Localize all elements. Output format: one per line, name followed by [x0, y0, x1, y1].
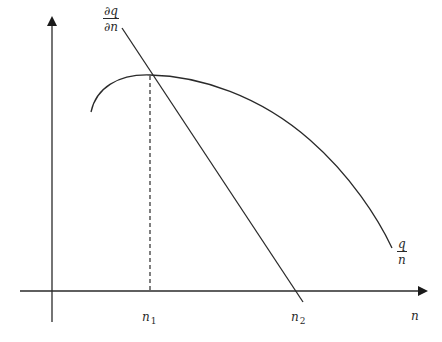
- n1-base: n: [142, 310, 150, 324]
- marginal-product-line: [122, 28, 303, 302]
- mp-denominator: ∂n: [103, 19, 119, 33]
- ap-denominator: n: [397, 252, 407, 266]
- x-axis-label: n: [411, 310, 419, 322]
- average-product-curve: [91, 75, 392, 248]
- marginal-product-label: ∂q ∂n: [103, 5, 119, 33]
- product-diagram: [0, 0, 442, 342]
- n2-base: n: [291, 310, 299, 324]
- n1-subscript: 1: [151, 316, 157, 326]
- n2-subscript: 2: [300, 316, 306, 326]
- mp-numerator: ∂q: [103, 5, 119, 18]
- average-product-label: q n: [397, 238, 407, 266]
- ap-numerator: q: [397, 238, 407, 251]
- n1-label: n1: [142, 311, 156, 326]
- n2-label: n2: [291, 311, 305, 326]
